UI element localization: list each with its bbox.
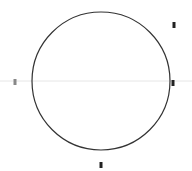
marker-right	[172, 80, 175, 86]
diagram-canvas	[0, 0, 192, 171]
marker-group	[14, 22, 176, 168]
marker-top-right	[173, 22, 176, 28]
marker-left	[14, 79, 17, 85]
marker-bottom	[100, 162, 103, 168]
